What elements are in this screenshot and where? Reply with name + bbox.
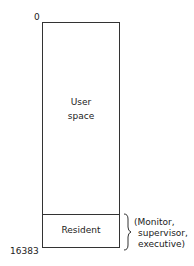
user-space-label-line1: User [42,97,120,108]
annotation-line1: (Monitor, [134,217,188,228]
user-space-label-line2: space [42,111,120,122]
bottom-address-label: 16383 [10,246,39,257]
annotation-line2: supervisor, [138,228,188,239]
annotation-line3: executive) [138,239,188,250]
top-address-label: 0 [34,12,40,23]
resident-annotation: (Monitor, supervisor, executive) [134,217,188,250]
region-divider [42,214,120,215]
curly-brace-icon [122,213,132,251]
resident-region-label: Resident [42,225,120,236]
user-space-region: User space [42,97,120,122]
